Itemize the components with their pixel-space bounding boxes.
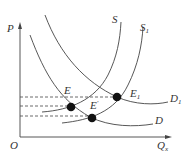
axis-label-q: Qx (157, 139, 169, 153)
point-label-e-prime: E' (89, 99, 99, 111)
origin-label: O (10, 139, 18, 151)
supply-demand-diagram: P O Qx S S1 D D1 E E' E1 (0, 0, 194, 161)
axis-label-p: P (6, 22, 14, 34)
y-axis-arrow-icon (18, 22, 22, 29)
equilibrium-point-e-prime (88, 114, 97, 123)
equilibrium-point-e1 (113, 93, 122, 102)
curve-label-d: D (154, 114, 163, 126)
demand-curve-d (30, 35, 153, 126)
curve-label-s: S (112, 13, 118, 25)
equilibrium-point-e (67, 103, 76, 112)
axes (18, 22, 172, 139)
curve-label-d1: D1 (169, 92, 181, 106)
point-label-e: E (63, 84, 71, 96)
curve-label-s1: S1 (140, 21, 149, 35)
x-axis-arrow-icon (165, 135, 172, 139)
point-label-e1: E1 (129, 87, 140, 101)
